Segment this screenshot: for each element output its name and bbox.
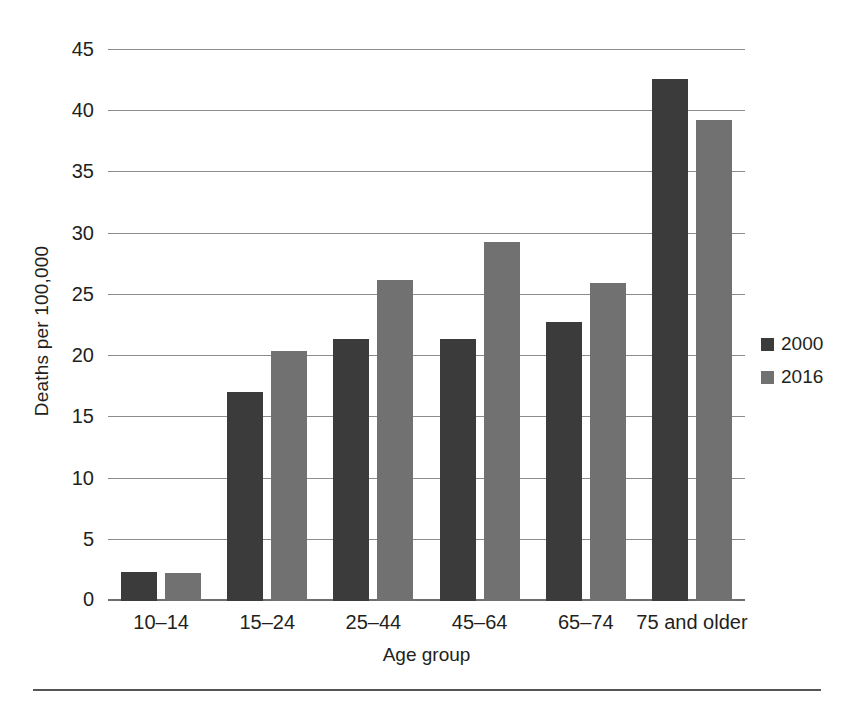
legend-label: 2000 <box>781 333 823 355</box>
bar-2000-10–14 <box>121 572 157 601</box>
bar-2016-65–74 <box>590 283 626 601</box>
bar-group: 65–74 <box>533 50 639 601</box>
y-axis-tick-label: 30 <box>72 223 94 243</box>
legend-item-2000: 2000 <box>761 333 823 355</box>
x-axis-tick-label: 75 and older <box>636 611 747 634</box>
bar-groups: 10–1415–2425–4445–6465–7475 and older <box>108 50 745 601</box>
y-axis-title: Deaths per 100,000 <box>31 201 53 461</box>
y-axis-tick-label: 10 <box>72 468 94 488</box>
bar-2016-10–14 <box>165 573 201 601</box>
y-axis-tick-label: 0 <box>83 589 94 609</box>
x-axis-title: Age group <box>108 644 745 666</box>
bar-group: 10–14 <box>108 50 214 601</box>
y-axis-tick-label: 35 <box>72 161 94 181</box>
bar-2016-45–64 <box>484 242 520 601</box>
legend: 20002016 <box>761 333 823 399</box>
y-axis-tick-label: 40 <box>72 100 94 120</box>
legend-swatch-icon <box>761 338 774 351</box>
y-axis-tick-label: 20 <box>72 345 94 365</box>
bar-2016-15–24 <box>271 351 307 601</box>
bar-group: 45–64 <box>427 50 533 601</box>
x-axis-tick-label: 10–14 <box>133 611 189 634</box>
bottom-divider <box>33 689 821 691</box>
x-axis-tick-label: 45–64 <box>452 611 508 634</box>
x-axis-tick-label: 65–74 <box>558 611 614 634</box>
chart-figure: Deaths per 100,000 051015202530354045 10… <box>0 0 854 704</box>
bar-2000-15–24 <box>227 392 263 601</box>
bar-2000-65–74 <box>546 322 582 601</box>
bar-2000-75-and-older <box>652 79 688 601</box>
y-axis-tick-label: 5 <box>83 529 94 549</box>
y-axis-tick-label: 25 <box>72 284 94 304</box>
legend-label: 2016 <box>781 366 823 388</box>
bar-2000-45–64 <box>440 339 476 601</box>
plot-area: 051015202530354045 10–1415–2425–4445–646… <box>108 50 745 601</box>
bar-group: 75 and older <box>639 50 745 601</box>
x-axis-tick-label: 25–44 <box>346 611 402 634</box>
bar-2016-75-and-older <box>696 120 732 601</box>
bar-2000-25–44 <box>333 339 369 601</box>
bar-2016-25–44 <box>377 280 413 601</box>
legend-swatch-icon <box>761 371 774 384</box>
legend-item-2016: 2016 <box>761 366 823 388</box>
bar-group: 25–44 <box>320 50 426 601</box>
y-axis-tick-label: 45 <box>72 39 94 59</box>
y-axis-tick-label: 15 <box>72 406 94 426</box>
bar-group: 15–24 <box>214 50 320 601</box>
x-axis-tick-label: 15–24 <box>239 611 295 634</box>
